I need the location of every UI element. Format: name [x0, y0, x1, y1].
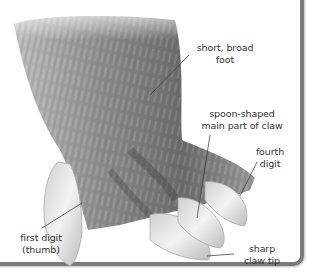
label-first-digit: first digit (thumb) — [10, 232, 72, 256]
label-sharp-claw-tip: sharp claw tip — [236, 243, 288, 267]
leader-sharp-claw-tip — [207, 254, 234, 256]
label-short-broad-foot: short, broad foot — [180, 42, 270, 66]
label-spoon-shaped-claw: spoon-shaped main part of claw — [192, 108, 292, 132]
diagram-canvas: short, broad foot spoon-shaped main part… — [0, 0, 310, 274]
label-fourth-digit: fourth digit — [248, 146, 292, 170]
